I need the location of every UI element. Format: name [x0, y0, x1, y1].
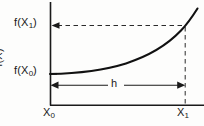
- h-arrowhead-right-icon: [177, 82, 185, 89]
- y-axis-label: f(X): [0, 48, 4, 67]
- f-x1-label: f(X1): [14, 17, 37, 30]
- x1-axis-label: X1: [177, 107, 189, 120]
- x0-axis-label: X0: [43, 107, 55, 120]
- f-x1-subscript: 1: [29, 21, 33, 30]
- f-x0-subscript: 0: [29, 69, 33, 78]
- h-interval-label: h: [111, 78, 117, 89]
- function-curve: [50, 9, 198, 75]
- f-x0-label: f(X0): [14, 65, 37, 78]
- x0-subscript: 0: [51, 111, 55, 120]
- f-x1-leader-arrowhead-icon: [52, 22, 60, 28]
- x1-subscript: 1: [185, 111, 189, 120]
- h-arrowhead-left-icon: [51, 82, 59, 89]
- function-increment-figure: f(X) f(X1) f(X0) h X0 X1: [0, 0, 204, 126]
